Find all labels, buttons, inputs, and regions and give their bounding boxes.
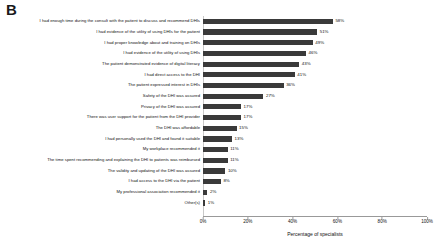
bar-chart-plot-area: I had enough time during the consult wit… [0, 16, 448, 216]
bar [203, 29, 317, 34]
bar-row: I had proper knowledge about and trainin… [0, 37, 448, 48]
bar-category-label: My professional association recommended … [0, 190, 203, 194]
bar-value-label: 15% [239, 126, 248, 130]
bar-track: 10% [203, 166, 448, 177]
bar-track: 41% [203, 69, 448, 80]
bar-track: 11% [203, 155, 448, 166]
bar [203, 51, 306, 56]
bar [203, 190, 207, 195]
bar-value-label: 41% [297, 73, 306, 77]
x-axis-tick: 80% [378, 217, 387, 224]
bar-category-label: I had proper knowledge about and trainin… [0, 41, 203, 45]
bar-row: The time spent recommending and explaini… [0, 155, 448, 166]
bar-category-label: The patient expressed interest in DHIs [0, 83, 203, 87]
tick-label: 100% [421, 220, 433, 225]
bar-row: The DHI was affordable15% [0, 123, 448, 134]
x-axis-title: Percentage of specialists [203, 232, 427, 237]
bar-track: 36% [203, 80, 448, 91]
bar-track: 13% [203, 134, 448, 145]
bar-row: I had access to the DHI via the patient8… [0, 176, 448, 187]
bar-value-label: 51% [320, 30, 329, 34]
tick-label: 20% [243, 220, 252, 225]
bar-track: 11% [203, 144, 448, 155]
bar-value-label: 11% [230, 158, 238, 162]
x-axis-tick: 60% [333, 217, 342, 224]
bar-category-label: The DHI was affordable [0, 126, 203, 130]
bar-track: 46% [203, 48, 448, 59]
bar-track: 58% [203, 16, 448, 27]
bar-row: Privacy of the DHI was assured17% [0, 102, 448, 113]
bar [203, 179, 221, 184]
bar-track: 17% [203, 102, 448, 113]
bar [203, 158, 228, 163]
bar-value-label: 8% [223, 179, 229, 183]
bar-row: The validity and updating of the DHI was… [0, 166, 448, 177]
bar-row: I had evidence of the utility of using D… [0, 27, 448, 38]
bar-category-label: The patient demonstrated evidence of dig… [0, 62, 203, 66]
bar [203, 147, 228, 152]
bar-row: I had personally used the DHI and found … [0, 134, 448, 145]
bar [203, 83, 284, 88]
bar-track: 51% [203, 27, 448, 38]
bar-value-label: 11% [230, 147, 238, 151]
bar-category-label: I had evidence of the utility of using D… [0, 51, 203, 55]
bar-value-label: 46% [309, 51, 318, 55]
bar-category-label: Safety of the DHI was assured [0, 94, 203, 98]
bar-value-label: 10% [228, 169, 237, 173]
bar-value-label: 43% [302, 62, 311, 66]
bar-row: There was user support for the patient f… [0, 112, 448, 123]
bar-row: Other(s)1% [0, 198, 448, 209]
bar-category-label: The time spent recommending and explaini… [0, 158, 203, 162]
bar-row: Safety of the DHI was assured27% [0, 91, 448, 102]
bar-value-label: 58% [335, 19, 344, 23]
bar-row: My professional association recommended … [0, 187, 448, 198]
bar-value-label: 2% [210, 190, 216, 194]
bar-value-label: 49% [315, 41, 324, 45]
bar-row: The patient demonstrated evidence of dig… [0, 59, 448, 70]
bar-value-label: 27% [266, 94, 275, 98]
bar-category-label: I had evidence of the utility of using D… [0, 30, 203, 34]
x-axis-tick: 20% [243, 217, 252, 224]
bar-value-label: 1% [208, 201, 214, 205]
bar [203, 200, 205, 205]
bar [203, 62, 299, 67]
bar-track: 43% [203, 59, 448, 70]
bar [203, 168, 225, 173]
bar-track: 2% [203, 187, 448, 198]
bar-category-label: Other(s) [0, 201, 203, 205]
bar-track: 8% [203, 176, 448, 187]
bar [203, 126, 237, 131]
x-axis-line [203, 216, 427, 217]
bar-value-label: 17% [244, 105, 253, 109]
bar-category-label: Privacy of the DHI was assured [0, 105, 203, 109]
bar [203, 136, 232, 141]
x-axis-tick: 0% [200, 217, 207, 224]
bar-row: I had direct access to the DHI41% [0, 69, 448, 80]
bar [203, 104, 241, 109]
bar-value-label: 36% [286, 83, 295, 87]
bar-track: 49% [203, 37, 448, 48]
bar-row: The patient expressed interest in DHIs36… [0, 80, 448, 91]
x-axis: 0%20%40%60%80%100% [203, 216, 427, 225]
tick-label: 60% [333, 220, 342, 225]
bar-value-label: 13% [235, 137, 244, 141]
bar [203, 94, 263, 99]
tick-label: 40% [288, 220, 297, 225]
tick-label: 0% [200, 220, 207, 225]
bar-category-label: The validity and updating of the DHI was… [0, 169, 203, 173]
x-axis-tick: 40% [288, 217, 297, 224]
bar-value-label: 17% [244, 115, 253, 119]
bar [203, 19, 333, 24]
bar-track: 27% [203, 91, 448, 102]
bar-row: I had enough time during the consult wit… [0, 16, 448, 27]
panel-label: B [6, 2, 17, 17]
bar-category-label: There was user support for the patient f… [0, 115, 203, 119]
x-axis-tick: 100% [421, 217, 433, 224]
tick-label: 80% [378, 220, 387, 225]
bar-row: My workplace recommended it11% [0, 144, 448, 155]
bar-category-label: I had enough time during the consult wit… [0, 19, 203, 23]
bar-track: 17% [203, 112, 448, 123]
bar-category-label: I had direct access to the DHI [0, 73, 203, 77]
bar-category-label: I had access to the DHI via the patient [0, 179, 203, 183]
bar-row: I had evidence of the utility of using D… [0, 48, 448, 59]
